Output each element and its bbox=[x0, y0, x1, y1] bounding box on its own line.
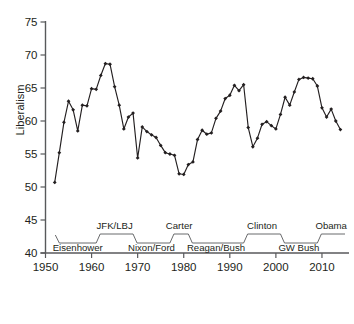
data-point bbox=[94, 87, 98, 91]
y-tick-label: 55 bbox=[25, 148, 38, 160]
y-tick-label: 60 bbox=[25, 115, 38, 127]
data-point bbox=[122, 127, 126, 131]
administration-timeline: EisenhowerJFK/LBJNixon/FordCarterReagan/… bbox=[53, 220, 348, 253]
data-point bbox=[113, 85, 117, 89]
x-tick-label: 1970 bbox=[125, 261, 151, 273]
data-point bbox=[209, 131, 213, 135]
data-point bbox=[53, 180, 57, 184]
data-point bbox=[320, 106, 324, 110]
data-point bbox=[306, 76, 310, 80]
y-axis-ticks: 4045505560657075 bbox=[25, 16, 46, 259]
data-point bbox=[196, 138, 200, 142]
administration-label: Eisenhower bbox=[53, 242, 104, 253]
administration-label: Nixon/Ford bbox=[128, 242, 175, 253]
data-point bbox=[57, 151, 61, 155]
x-tick-label: 1960 bbox=[79, 261, 105, 273]
y-tick-label: 45 bbox=[25, 214, 38, 226]
liberalism-series-markers bbox=[53, 62, 342, 185]
data-point bbox=[302, 76, 306, 80]
data-point bbox=[99, 74, 103, 78]
y-tick-label: 65 bbox=[25, 82, 38, 94]
x-tick-label: 1980 bbox=[171, 261, 197, 273]
data-point bbox=[85, 104, 89, 108]
administration-label: Reagan/Bush bbox=[187, 242, 245, 253]
data-point bbox=[292, 90, 296, 94]
data-point bbox=[182, 173, 186, 177]
administration-label: JFK/LBJ bbox=[96, 220, 132, 231]
x-tick-label: 1950 bbox=[33, 261, 59, 273]
x-tick-label: 2010 bbox=[309, 261, 335, 273]
administration-label: Obama bbox=[315, 220, 347, 231]
data-point bbox=[246, 126, 250, 130]
data-point bbox=[117, 103, 121, 107]
x-tick-label: 2000 bbox=[263, 261, 289, 273]
administration-label: Clinton bbox=[247, 220, 277, 231]
liberalism-time-series-chart: Liberalism 4045505560657075 195019601970… bbox=[0, 0, 354, 324]
plot-area: 4045505560657075 19501960197019801990200… bbox=[0, 0, 354, 324]
data-point bbox=[279, 113, 283, 117]
data-point bbox=[177, 172, 181, 176]
administration-label: Carter bbox=[166, 220, 193, 231]
data-point bbox=[173, 153, 177, 157]
y-tick-label: 40 bbox=[25, 247, 38, 259]
y-tick-label: 75 bbox=[25, 16, 38, 28]
data-point bbox=[62, 120, 66, 124]
data-point bbox=[108, 62, 112, 66]
data-point bbox=[297, 78, 301, 82]
data-point bbox=[76, 129, 80, 133]
data-point bbox=[90, 87, 94, 91]
x-axis-ticks: 1950196019701980199020002010 bbox=[33, 253, 335, 273]
administration-label: GW Bush bbox=[278, 242, 319, 253]
data-point bbox=[104, 62, 108, 66]
x-tick-label: 1990 bbox=[217, 261, 243, 273]
data-point bbox=[168, 152, 172, 156]
y-tick-label: 70 bbox=[25, 49, 38, 61]
data-point bbox=[80, 103, 84, 107]
liberalism-series-line bbox=[55, 64, 341, 183]
y-tick-label: 50 bbox=[25, 181, 38, 193]
data-point bbox=[136, 156, 140, 160]
